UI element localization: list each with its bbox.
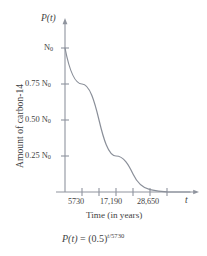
carbon-14-decay-figure: P(t) Amount of carbon-14 N0 0.75 N0 0.50… <box>0 0 207 256</box>
x-tick-label-17190: 17,190 <box>100 198 122 206</box>
y-axis-symbol: P(t) <box>41 14 56 24</box>
y-tick-label-025n0: 0.25 N0 <box>25 152 51 160</box>
x-axis-symbol: t <box>185 196 188 206</box>
y-tick-label-050n0: 0.50 N0 <box>25 116 51 124</box>
y-tick-label-075n0: 0.75 N0 <box>25 80 51 88</box>
x-tick-label-28650: 28,650 <box>137 198 159 206</box>
x-axis-title: Time (in years) <box>86 211 142 220</box>
x-tick-label-5730: 5730 <box>68 198 84 206</box>
y-tick-label-n0: N0 <box>44 44 53 52</box>
equation-caption: P(t) = (0.5)t/5730 <box>62 233 124 244</box>
y-axis <box>63 18 68 192</box>
decay-curve <box>65 48 190 192</box>
